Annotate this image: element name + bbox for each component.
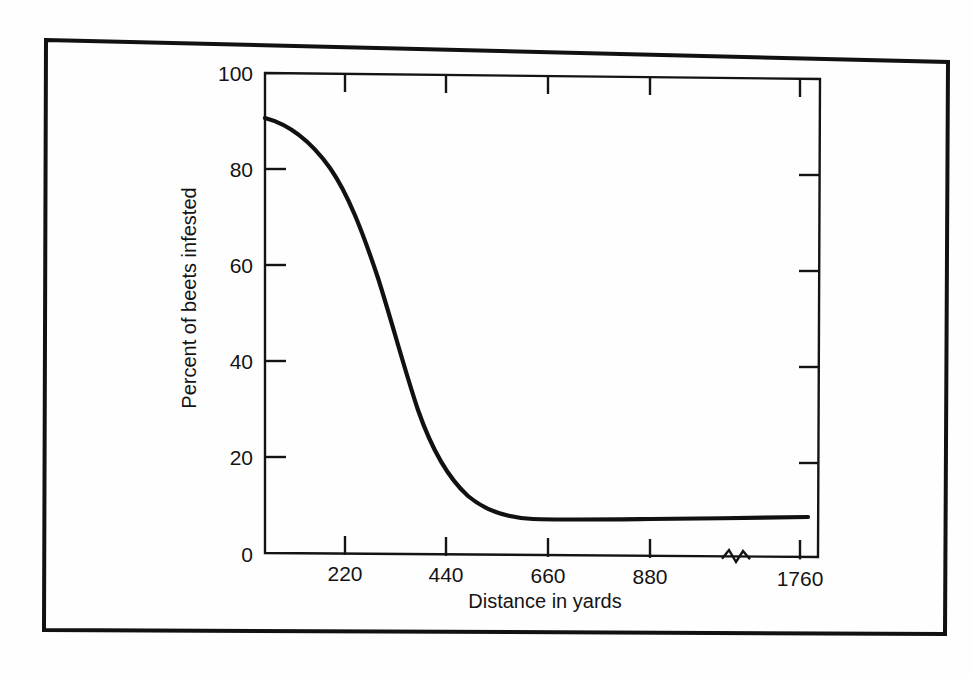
x-tick-labels: 220 440 660 880 1760 — [327, 562, 823, 590]
y-tick-label-60: 60 — [230, 254, 253, 277]
x-tick-label-440: 440 — [428, 563, 463, 586]
x-tick-label-660: 660 — [530, 564, 565, 587]
y-tick-labels: 100 80 60 40 20 0 — [218, 62, 253, 566]
plot-box — [265, 73, 820, 557]
data-curve — [265, 118, 808, 520]
axes-rect — [265, 73, 820, 557]
y-tick-label-80: 80 — [230, 158, 253, 181]
x-tick-label-1760: 1760 — [777, 567, 824, 590]
x-axis-title: Distance in yards — [468, 590, 621, 612]
y-axis-right-ticks — [799, 175, 820, 463]
y-tick-label-20: 20 — [230, 446, 253, 469]
y-tick-label-0: 0 — [241, 543, 253, 566]
figure-page: 100 80 60 40 20 0 220 440 660 880 1760 D… — [0, 0, 972, 674]
y-tick-label-40: 40 — [230, 350, 253, 373]
x-tick-label-220: 220 — [327, 562, 362, 585]
y-tick-label-100: 100 — [218, 62, 253, 85]
y-axis-ticks — [266, 169, 286, 457]
chart-figure: 100 80 60 40 20 0 220 440 660 880 1760 D… — [0, 0, 972, 674]
y-axis-title: Percent of beets infested — [178, 187, 200, 408]
x-tick-label-880: 880 — [632, 565, 667, 588]
